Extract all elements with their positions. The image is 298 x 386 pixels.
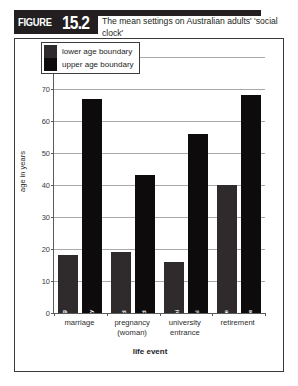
y-tick-mark [51, 281, 54, 282]
y-tick-label: 10 [42, 277, 50, 286]
y-tick-mark [51, 121, 54, 122]
figure-badge-word: FIGURE [18, 16, 52, 28]
bar-caption-holder: to young to enter uni [164, 262, 184, 310]
y-tick-label: 60 [42, 117, 50, 126]
x-category-label-1: pregnancy(woman) [106, 318, 159, 338]
bar-caption-holder: too young to have first child [111, 252, 131, 310]
bar-caption: to young to enter uni [166, 310, 181, 313]
x-category-label-0: marriage [53, 318, 106, 328]
bar-caption-holder: too young to retire [217, 185, 237, 310]
bar-upper-0: too old to marry [82, 99, 102, 313]
y-tick-label: 40 [42, 181, 50, 190]
y-tick-label: 50 [42, 149, 50, 158]
x-tick-mark [54, 313, 55, 316]
bar-lower-1: too young to have first child [111, 252, 131, 313]
bar-caption: too young to retire [223, 310, 231, 313]
bar-lower-2: to young to enter uni [164, 262, 184, 313]
gridline [54, 89, 265, 90]
figure-badge: FIGURE 15.2 [14, 10, 98, 34]
bar-caption: too old to have first child [141, 310, 149, 313]
x-tick-mark [107, 313, 108, 316]
bar-upper-1: too old to have first child [135, 175, 155, 313]
figure-container: FIGURE 15.2 The mean settings on Austral… [14, 10, 284, 372]
bar-caption: too old to marry [89, 310, 97, 313]
x-tick-mark [265, 313, 266, 316]
x-category-label-line: marriage [53, 318, 106, 328]
legend-item-upper: upper age boundary [44, 58, 134, 71]
x-category-label-line: pregnancy [106, 318, 159, 328]
x-tick-mark [160, 313, 161, 316]
y-tick-mark [51, 249, 54, 250]
legend-label-upper: upper age boundary [62, 60, 134, 69]
y-tick-label: 30 [42, 213, 50, 222]
chart-legend: lower age boundary upper age boundary [41, 42, 140, 74]
bar-caption-holder: too old to have first child [135, 175, 155, 310]
figure-title: The mean settings on Australian adults' … [102, 15, 280, 39]
bar-lower-0: too young to marry [58, 255, 78, 313]
x-tick-mark [212, 313, 213, 316]
bar-caption-holder: too old to remain in the workforce [241, 170, 261, 310]
x-category-label-3: retirement [211, 318, 264, 328]
legend-label-lower: lower age boundary [62, 47, 132, 56]
chart-frame: age in years 01020304050607080too young … [14, 38, 284, 372]
y-tick-mark [51, 89, 54, 90]
y-tick-mark [51, 153, 54, 154]
legend-item-lower: lower age boundary [44, 45, 134, 58]
bar-caption-holder: too young to marry [58, 255, 78, 310]
bar-caption: too old to remain in the workforce [247, 310, 255, 313]
x-category-label-line: retirement [211, 318, 264, 328]
bar-upper-3: too old to remain in the workforce [241, 95, 261, 313]
x-axis-title: life event [15, 347, 285, 356]
legend-swatch-lower-icon [44, 45, 57, 58]
x-category-label-line: entrance [159, 328, 212, 338]
bar-caption: too old to enter uni [194, 310, 202, 313]
bar-upper-2: too old to enter uni [188, 134, 208, 313]
x-category-label-line: (woman) [106, 328, 159, 338]
y-tick-label: 70 [42, 85, 50, 94]
legend-swatch-upper-icon [44, 58, 57, 71]
bar-caption-holder: too old to enter uni [188, 170, 208, 310]
figure-badge-number: 15.2 [62, 13, 89, 32]
y-tick-label: 20 [42, 245, 50, 254]
y-axis-title: age in years [18, 151, 27, 192]
plot-area: 01020304050607080too young to marrytoo o… [53, 57, 265, 314]
y-tick-mark [51, 217, 54, 218]
bar-caption-holder: too old to marry [82, 170, 102, 310]
bar-lower-3: too young to retire [217, 185, 237, 313]
bar-caption: too young to marry [61, 310, 76, 313]
bar-caption: too young to have first child [114, 310, 129, 313]
y-tick-label: 0 [46, 309, 50, 318]
x-category-label-2: universityentrance [159, 318, 212, 338]
x-category-label-line: university [159, 318, 212, 328]
y-tick-mark [51, 185, 54, 186]
